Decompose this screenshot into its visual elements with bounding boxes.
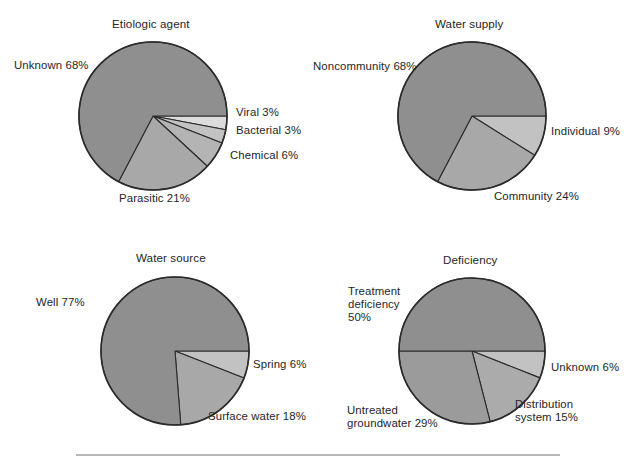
chart-title-water-supply: Water supply [435, 17, 503, 30]
slice-label-surface-water: Surface water 18% [208, 410, 306, 423]
slice-label-noncommunity: Noncommunity 68% [313, 60, 417, 73]
slice-label-unknown: Unknown 68% [14, 59, 89, 72]
chart-title-deficiency: Deficiency [443, 253, 497, 266]
pie-slice-bacterial [153, 116, 226, 143]
slice-label-individual: Individual 9% [551, 125, 620, 138]
slice-label-viral: Viral 3% [236, 106, 279, 119]
pie-slice-treatment-deficiency [399, 278, 545, 351]
pie-outline-water-supply [398, 42, 546, 190]
slice-label-bacterial: Bacterial 3% [236, 124, 301, 137]
slice-label-unknown: Unknown 6% [551, 361, 619, 374]
pie-slice-unknown [472, 351, 545, 378]
slice-label-untreated-groundwater: Untreated groundwater 29% [347, 404, 438, 430]
pie-chart-figure: Etiologic agentViral 3%Bacterial 3%Chemi… [0, 0, 638, 463]
pie-slice-chemical [153, 116, 222, 166]
pie-slice-spring [175, 351, 249, 378]
pie-slice-well [101, 277, 249, 425]
slice-label-distribution-system: Distribution system 15% [515, 398, 578, 424]
pie-slice-unknown [79, 42, 227, 182]
chart-title-etiologic-agent: Etiologic agent [112, 17, 190, 30]
slice-label-well: Well 77% [36, 296, 85, 309]
slice-label-parasitic: Parasitic 21% [119, 192, 190, 205]
slice-label-chemical: Chemical 6% [230, 149, 298, 162]
pie-slice-community [438, 116, 535, 190]
pie-water-source [101, 277, 249, 425]
pie-slice-noncommunity [398, 42, 546, 182]
pie-slice-viral [153, 116, 227, 130]
pie-slice-individual [472, 116, 546, 155]
pie-outline-water-source [101, 277, 249, 425]
chart-title-water-source: Water source [136, 251, 206, 264]
slice-label-treatment-deficiency: Treatment deficiency 50% [348, 285, 400, 325]
pie-outline-etiologic-agent [79, 42, 227, 190]
slice-label-community: Community 24% [494, 190, 579, 203]
slice-label-spring: Spring 6% [253, 358, 306, 371]
figure-divider-rule [76, 454, 560, 456]
pie-etiologic-agent [79, 42, 227, 190]
pie-slice-parasitic [119, 116, 208, 190]
pie-water-supply [398, 42, 546, 190]
